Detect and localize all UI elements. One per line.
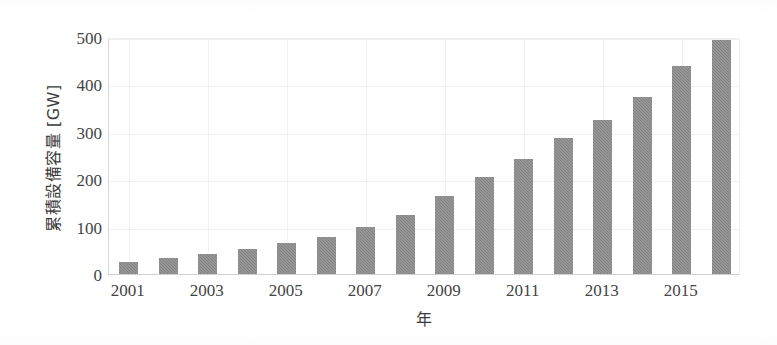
chart-figure: 累積設備容量 [GW] 0100200300400500 20012003200…: [0, 0, 777, 345]
bar: [435, 196, 454, 274]
x-tick-label: 2013: [567, 281, 637, 301]
bar: [633, 97, 652, 274]
x-tick-label: 2015: [646, 281, 716, 301]
y-tick-label: 500: [56, 30, 102, 47]
x-tick-label: 2007: [330, 281, 400, 301]
bar: [554, 138, 573, 275]
bar: [159, 258, 178, 274]
y-tick-label: 400: [56, 77, 102, 94]
y-tick-label: 300: [56, 125, 102, 142]
bar: [277, 243, 296, 274]
bar: [712, 40, 731, 274]
bar: [317, 237, 336, 274]
y-tick-label: 200: [56, 172, 102, 189]
bar: [396, 215, 415, 274]
x-tick-label: 2009: [409, 281, 479, 301]
x-tick-label: 2003: [172, 281, 242, 301]
y-tick-label: 100: [56, 220, 102, 237]
bar: [238, 249, 257, 274]
bar: [475, 177, 494, 274]
bar: [356, 227, 375, 274]
x-axis-label: 年: [108, 306, 740, 330]
bar-series: [109, 39, 739, 274]
bar: [593, 120, 612, 274]
plot-area: [108, 38, 740, 275]
x-tick-label: 2001: [93, 281, 163, 301]
x-tick-label: 2011: [488, 281, 558, 301]
x-tick-label: 2005: [251, 281, 321, 301]
bar: [514, 159, 533, 274]
bar: [672, 66, 691, 274]
bar: [198, 254, 217, 274]
bar: [119, 262, 138, 274]
